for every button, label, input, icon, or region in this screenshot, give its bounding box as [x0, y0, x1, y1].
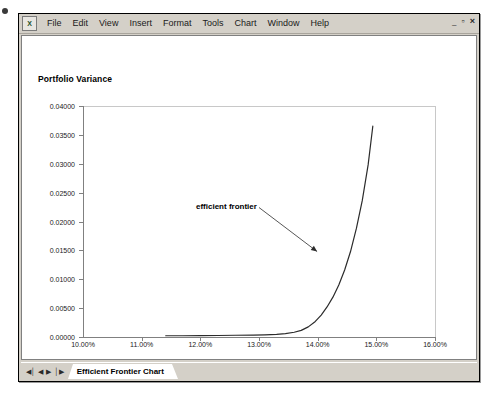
sheet-nav-buttons: ◀│ ◀ ▶ │▶ [21, 368, 68, 375]
sheet-tab-efficient-frontier-chart[interactable]: Efficient Frontier Chart [73, 364, 172, 379]
prev-sheet-icon[interactable]: ◀ [38, 368, 43, 375]
minimize-button[interactable]: – [452, 20, 456, 29]
window-controls: – ▫ × [452, 17, 475, 26]
first-sheet-icon[interactable]: ◀│ [26, 368, 35, 375]
sheet-tab-bar: ◀│ ◀ ▶ │▶ Efficient Frontier Chart [21, 362, 477, 379]
next-sheet-icon[interactable]: ▶ [46, 368, 51, 375]
menu-bar: X File Edit View Insert Format Tools Cha… [19, 14, 479, 34]
annotation-arrow-line [259, 208, 317, 252]
efficient-frontier-curve [166, 126, 373, 336]
menu-item-file[interactable]: File [42, 17, 68, 30]
last-sheet-icon[interactable]: │▶ [54, 368, 63, 375]
spreadsheet-window: X File Edit View Insert Format Tools Cha… [18, 13, 480, 382]
efficient-frontier-annotation: efficient frontier [196, 202, 257, 211]
annotation-arrowhead-icon [311, 246, 317, 252]
menu-item-help[interactable]: Help [305, 17, 335, 30]
menu-item-edit[interactable]: Edit [68, 17, 95, 30]
menu-item-chart[interactable]: Chart [229, 17, 262, 30]
menu-item-format[interactable]: Format [158, 17, 198, 30]
chart-sheet[interactable]: Portfolio Variance 0.040000.035000.03000… [21, 35, 477, 360]
chart-canvas [22, 36, 478, 359]
menu-item-window[interactable]: Window [262, 17, 305, 30]
application-icon[interactable]: X [22, 16, 37, 31]
sheet-tab-empty-area[interactable] [178, 364, 477, 379]
menu-item-view[interactable]: View [94, 17, 124, 30]
close-button[interactable]: × [470, 17, 475, 26]
artifact-dot [2, 8, 8, 14]
menu-item-insert[interactable]: Insert [124, 17, 158, 30]
menu-item-tools[interactable]: Tools [197, 17, 229, 30]
restore-button[interactable]: ▫ [462, 17, 465, 26]
